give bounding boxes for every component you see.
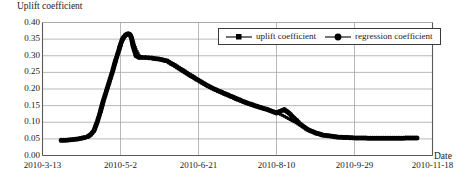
chart-legend: uplift coefficient regression coefficien… [218, 28, 441, 45]
uplift-coefficient-chart: Uplift coefficient Date 0.000.050.100.15… [0, 0, 468, 190]
legend-line-square-icon [226, 32, 252, 42]
x-tick-label: 2010-3-13 [24, 160, 62, 170]
x-tick-label: 2010-11-18 [412, 160, 454, 170]
legend-entry-regression: regression coefficient [325, 32, 433, 42]
x-tick-label: 2010-5-2 [104, 160, 137, 170]
legend-label-uplift: uplift coefficient [256, 32, 316, 41]
x-tick-label: 2010-6-21 [180, 160, 218, 170]
legend-entry-uplift: uplift coefficient [226, 32, 316, 42]
legend-label-regression: regression coefficient [355, 32, 433, 41]
x-tick-label: 2010-8-10 [258, 160, 296, 170]
x-tick-label: 2010-9-29 [336, 160, 374, 170]
legend-line-circle-icon [325, 32, 351, 42]
